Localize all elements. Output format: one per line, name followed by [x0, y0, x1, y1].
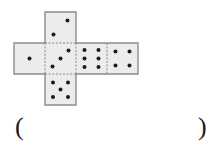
pip — [128, 50, 132, 54]
answer-blank: ( ) — [0, 112, 214, 148]
pip — [97, 48, 101, 52]
pip — [52, 33, 56, 37]
pip — [28, 57, 32, 61]
pip — [114, 64, 118, 68]
dice-net-figure: ( ) — [0, 0, 214, 148]
face-right-inner-fill — [76, 43, 107, 74]
pip — [83, 57, 87, 61]
close-paren: ) — [198, 112, 207, 142]
pip — [51, 81, 55, 85]
pip — [114, 50, 118, 54]
pip — [97, 65, 101, 69]
pip — [97, 57, 101, 61]
pips-face-left — [28, 57, 32, 61]
pip — [51, 65, 55, 69]
pip — [66, 95, 70, 99]
pip — [66, 19, 70, 23]
face-right-outer-fill — [107, 43, 138, 74]
pip — [51, 95, 55, 99]
open-paren: ( — [15, 112, 24, 142]
pip — [83, 65, 87, 69]
pip — [59, 57, 63, 61]
pip — [83, 48, 87, 52]
pip — [59, 88, 63, 92]
pip — [67, 49, 71, 53]
answer-value[interactable] — [30, 112, 196, 142]
pip — [66, 81, 70, 85]
pip — [128, 64, 132, 68]
face-top-fill — [45, 12, 76, 43]
